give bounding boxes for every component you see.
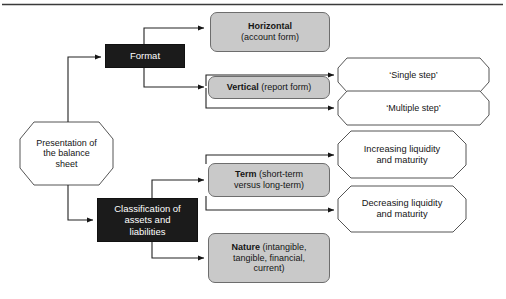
node-increasing-line1: Increasing liquidity [364, 144, 440, 155]
node-decreasing-liquidity: Decreasing liquidity and maturity [338, 186, 466, 232]
node-classification-line1: Classification of [114, 203, 181, 214]
node-nature-sub2: tangible, financial, [231, 253, 306, 264]
node-classification[interactable]: Classification of assets and liabilities [97, 198, 198, 242]
node-vertical-subtitle: (report form) [261, 82, 311, 92]
node-increasing-liquidity: Increasing liquidity and maturity [338, 131, 466, 178]
node-term[interactable]: Term (short-term versus long-term) [208, 163, 330, 197]
node-term-sub2: versus long-term) [234, 180, 304, 191]
node-horizontal[interactable]: Horizontal (account form) [210, 12, 330, 52]
node-multiple-step-label: ‘Multiple step’ [386, 103, 441, 114]
node-horizontal-title: Horizontal [241, 21, 299, 32]
node-root: Presentation of the balance sheet [20, 122, 113, 185]
edge-term-to-decreasing [206, 196, 334, 210]
node-root-line2: the balance [36, 148, 97, 159]
node-term-title: Term [235, 169, 256, 179]
node-vertical[interactable]: Vertical (report form) [208, 76, 330, 99]
node-multiple-step: ‘Multiple step’ [338, 91, 489, 125]
node-increasing-line2: and maturity [364, 155, 440, 166]
node-nature-title: Nature [231, 242, 260, 252]
edge-format-to-horizontal [144, 28, 204, 44]
node-horizontal-subtitle: (account form) [241, 32, 299, 43]
edge-classification-to-nature [152, 242, 204, 258]
node-format-label: Format [130, 50, 160, 61]
node-classification-line2: assets and [114, 214, 181, 225]
edge-root-to-classification [68, 185, 93, 220]
edge-root-to-format [68, 57, 101, 122]
node-nature-sub1: (intangible, [263, 242, 307, 252]
diagram-canvas: Presentation of the balance sheet Format… [0, 0, 506, 299]
node-root-line3: sheet [36, 159, 97, 170]
node-decreasing-line2: and maturity [362, 209, 443, 220]
node-nature-sub3: current) [231, 263, 306, 274]
node-vertical-title: Vertical [227, 82, 259, 92]
node-single-step: ‘Single step’ [338, 58, 489, 92]
node-decreasing-line1: Decreasing liquidity [362, 198, 443, 209]
node-format[interactable]: Format [105, 44, 185, 68]
node-single-step-label: ‘Single step’ [389, 70, 438, 81]
edge-classification-to-term [152, 180, 204, 198]
node-term-sub1: (short-term [259, 169, 303, 179]
edge-format-to-vertical [144, 68, 204, 87]
node-classification-line3: liabilities [114, 226, 181, 237]
node-root-line1: Presentation of [36, 138, 97, 149]
node-nature[interactable]: Nature (intangible, tangible, financial,… [208, 233, 330, 283]
